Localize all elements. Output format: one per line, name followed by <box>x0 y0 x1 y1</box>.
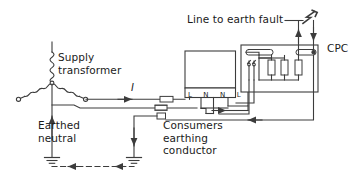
label-line-to-earth-fault: Line to earth fault <box>187 13 283 26</box>
supply-neutral-conductor <box>52 105 197 110</box>
load-device-3 <box>295 60 302 75</box>
label-earthed-neutral: Earthed neutral <box>38 119 80 144</box>
switch-contact-left <box>248 63 251 66</box>
label-consumer-unit-terminals: L N N L <box>188 89 245 102</box>
consumer-earth-electrode-symbol <box>127 158 142 164</box>
load-device-1 <box>268 60 275 75</box>
load-device-2 <box>281 60 288 75</box>
earthing-conductor-run <box>134 116 157 157</box>
transformer-terminal-left <box>16 97 20 101</box>
label-cpc: CPC <box>327 42 348 55</box>
consumer-unit-box <box>185 51 236 114</box>
line-conductor <box>86 96 185 102</box>
neutral-bridge <box>201 109 206 114</box>
transformer-winding-right <box>52 83 79 96</box>
switch-contact-right <box>253 63 256 66</box>
neutral-cable-joint <box>155 105 167 110</box>
fault-lightning-bolt <box>303 12 315 24</box>
line-cable-joint <box>160 96 173 102</box>
label-current-i: I <box>131 82 134 95</box>
consumer-unit-outline <box>185 51 236 88</box>
consumers-earthing-conductor <box>134 113 166 157</box>
transformer-earth-electrode-symbol <box>45 158 60 164</box>
transformer-winding-left <box>25 83 52 96</box>
label-consumers-earthing-conductor: Consumers earthing conductor <box>163 119 223 157</box>
transformer-winding-top <box>50 52 54 83</box>
label-supply-transformer: Supply transformer <box>58 51 121 76</box>
neutral-run-to-unit <box>52 105 197 108</box>
earth-fault-loop-diagram: Line to earth fault CPC Supply transform… <box>0 0 357 183</box>
